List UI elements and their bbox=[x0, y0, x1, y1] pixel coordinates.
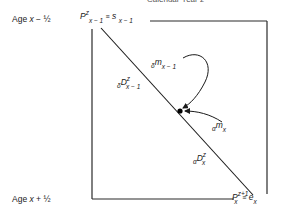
label-delta-m: δmx − 1 bbox=[151, 58, 176, 67]
curved-arrow-delta-m bbox=[183, 55, 208, 108]
lexis-diagram bbox=[0, 0, 290, 212]
bottom-corner-label: Pz+1x ≡ ex bbox=[232, 193, 257, 202]
diagonal-cohort-line bbox=[101, 28, 253, 195]
label-alpha-m: αmx bbox=[212, 121, 226, 130]
label-alpha-D: αDzx bbox=[193, 154, 205, 163]
top-corner-label: Pzx − 1 ≡ s x − 1 bbox=[80, 12, 133, 21]
event-dot bbox=[177, 108, 182, 113]
age-label-top: Age x − ½ bbox=[12, 15, 51, 24]
age-label-bottom: Age x + ½ bbox=[12, 195, 51, 204]
label-delta-D: δDzx − 1 bbox=[117, 78, 140, 87]
